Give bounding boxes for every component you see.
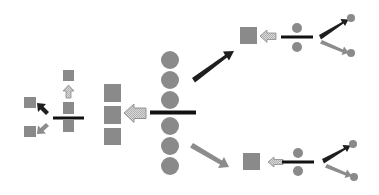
lower-branch bbox=[243, 140, 358, 181]
upper-branch bbox=[240, 14, 355, 57]
gray-arrow-down-left bbox=[37, 123, 49, 134]
lower-tip-circle-bottom bbox=[350, 173, 358, 181]
square-column bbox=[104, 84, 121, 145]
division-bar-small bbox=[53, 117, 84, 120]
upper-circle-top bbox=[292, 23, 302, 33]
circle-3 bbox=[161, 91, 179, 109]
black-arrow-up-left bbox=[37, 103, 49, 115]
middle-small-square bbox=[63, 102, 74, 114]
lower-square bbox=[243, 153, 260, 170]
hatched-left-arrow-large bbox=[124, 104, 146, 123]
gray-arrow-upper bbox=[320, 40, 349, 55]
gray-arrow-lower bbox=[325, 164, 352, 178]
column-square-2 bbox=[104, 106, 121, 124]
division-bar-upper bbox=[281, 36, 313, 39]
division-bar-lower bbox=[282, 161, 314, 164]
bottom-small-square bbox=[63, 120, 74, 132]
left-lower-square bbox=[24, 126, 36, 137]
hatched-up-arrow bbox=[63, 85, 74, 98]
division-diagram bbox=[0, 0, 379, 195]
lower-tip-circle-top bbox=[349, 140, 357, 148]
left-upper-square bbox=[24, 97, 36, 108]
circle-1 bbox=[161, 51, 179, 69]
hatched-left-arrow-lower bbox=[268, 157, 283, 167]
black-arrow-upper bbox=[319, 19, 349, 40]
upper-tip-circle-bottom bbox=[347, 49, 355, 57]
left-cluster bbox=[24, 70, 84, 137]
upper-square bbox=[240, 27, 257, 44]
black-arrow-up-right-large bbox=[192, 51, 234, 83]
upper-circle-bottom bbox=[292, 42, 302, 52]
circle-5 bbox=[161, 137, 179, 155]
upper-tip-circle-top bbox=[347, 14, 355, 22]
lower-circle-top bbox=[293, 148, 303, 158]
black-arrow-lower bbox=[322, 145, 351, 164]
gray-arrow-down-right-large bbox=[190, 143, 229, 168]
column-square-3 bbox=[104, 128, 121, 145]
lower-circle-bottom bbox=[293, 166, 303, 176]
top-small-square bbox=[63, 70, 74, 81]
circle-column bbox=[150, 51, 196, 175]
circle-2 bbox=[161, 71, 179, 89]
column-square-1 bbox=[104, 84, 121, 102]
circle-4 bbox=[161, 117, 179, 135]
division-bar-large bbox=[150, 111, 196, 115]
hatched-left-arrow-upper bbox=[260, 30, 276, 43]
circle-6 bbox=[161, 157, 179, 175]
